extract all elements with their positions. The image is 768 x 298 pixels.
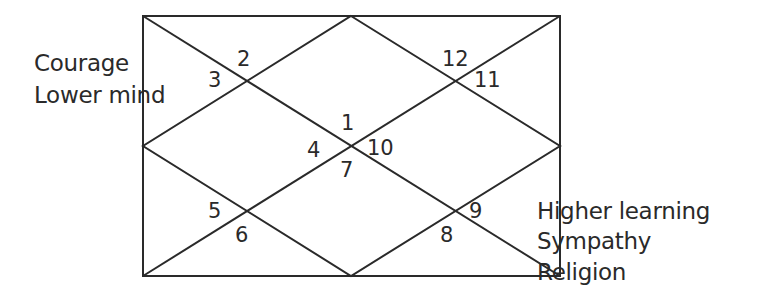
house-number-9: 9 <box>469 201 482 222</box>
house-number-7: 7 <box>340 160 353 181</box>
house-number-5: 5 <box>208 201 221 222</box>
house-number-1: 1 <box>341 113 354 134</box>
annotation-lower-mind: Lower mind <box>34 84 165 107</box>
house-number-10: 10 <box>367 138 394 159</box>
house-number-11: 11 <box>474 70 501 91</box>
annotation-sympathy: Sympathy <box>537 230 651 253</box>
house-number-4: 4 <box>307 140 320 161</box>
house-number-6: 6 <box>235 225 248 246</box>
house-number-3: 3 <box>208 70 221 91</box>
annotation-higher-learning: Higher learning <box>537 200 710 223</box>
house-number-8: 8 <box>440 225 453 246</box>
house-number-12: 12 <box>442 49 469 70</box>
astrology-chart: 1 2 3 4 5 6 7 8 9 10 11 12 Courage Lower… <box>0 0 768 298</box>
annotation-courage: Courage <box>34 52 129 75</box>
house-number-2: 2 <box>237 49 250 70</box>
annotation-religion: Religion <box>537 261 626 284</box>
